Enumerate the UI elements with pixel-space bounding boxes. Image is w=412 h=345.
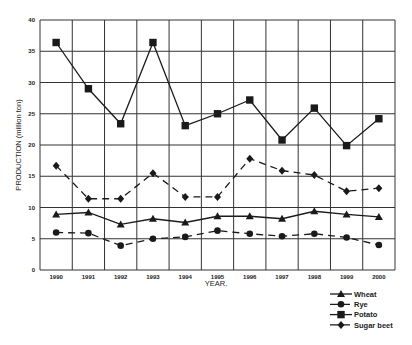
data-series <box>52 39 383 249</box>
series-sugar-beet <box>53 155 383 203</box>
x-tick-label: 1992 <box>114 274 128 280</box>
y-tick-label: 10 <box>28 205 35 211</box>
x-tick-label: 2000 <box>372 274 386 280</box>
square-marker-icon <box>278 136 285 143</box>
square-marker-icon <box>214 110 221 117</box>
diamond-marker-icon <box>343 187 350 195</box>
diamond-marker-icon <box>338 321 345 329</box>
diamond-marker-icon <box>117 195 124 203</box>
x-tick-label: 1991 <box>82 274 96 280</box>
circle-marker-icon <box>338 301 345 308</box>
circle-marker-icon <box>246 230 253 237</box>
y-tick-label: 20 <box>28 142 35 148</box>
x-tick-label: 1999 <box>340 274 354 280</box>
triangle-marker-icon <box>84 209 92 216</box>
square-marker-icon <box>375 115 382 122</box>
x-tick-label: 1993 <box>146 274 160 280</box>
circle-marker-icon <box>343 234 350 241</box>
diamond-marker-icon <box>279 167 286 175</box>
series-rye <box>53 227 382 249</box>
triangle-marker-icon <box>149 215 157 222</box>
circle-marker-icon <box>214 227 221 234</box>
y-axis-title: PRODUCTION (million ton) <box>14 99 23 191</box>
line-chart: 0510152025303540 19901991199219931994199… <box>0 0 412 345</box>
x-tick-label: 1994 <box>179 274 193 280</box>
legend-item-sugar-beet: Sugar beet <box>330 321 393 330</box>
y-tick-label: 35 <box>28 48 35 54</box>
legend-label: Rye <box>354 300 368 309</box>
circle-marker-icon <box>279 233 286 240</box>
circle-marker-icon <box>117 242 124 249</box>
x-tick-label: 1996 <box>243 274 257 280</box>
y-tick-label: 15 <box>28 173 35 179</box>
legend-label: Sugar beet <box>354 321 393 330</box>
x-tick-label: 1990 <box>49 274 63 280</box>
y-axis-ticks: 0510152025303540 <box>28 17 35 273</box>
circle-marker-icon <box>85 230 92 237</box>
y-tick-label: 5 <box>32 236 36 242</box>
legend: WheatRyePotatoSugar beet <box>330 290 393 330</box>
square-marker-icon <box>343 142 350 149</box>
legend-label: Wheat <box>354 290 377 299</box>
x-tick-label: 1997 <box>275 274 289 280</box>
y-tick-label: 40 <box>28 17 35 23</box>
diamond-marker-icon <box>311 171 318 179</box>
square-marker-icon <box>182 122 189 129</box>
legend-item-potato: Potato <box>330 310 378 319</box>
legend-item-rye: Rye <box>330 300 368 309</box>
square-marker-icon <box>85 85 92 92</box>
y-tick-label: 30 <box>28 80 35 86</box>
square-marker-icon <box>52 39 59 46</box>
circle-marker-icon <box>311 230 318 237</box>
triangle-marker-icon <box>310 207 318 214</box>
square-marker-icon <box>311 104 318 111</box>
square-marker-icon <box>337 311 344 318</box>
circle-marker-icon <box>182 234 189 241</box>
legend-item-wheat: Wheat <box>330 290 377 299</box>
x-tick-label: 1998 <box>308 274 322 280</box>
diamond-marker-icon <box>375 184 382 192</box>
y-tick-label: 0 <box>32 267 36 273</box>
square-marker-icon <box>117 120 124 127</box>
diamond-marker-icon <box>246 155 253 163</box>
circle-marker-icon <box>150 235 157 242</box>
series-wheat <box>52 207 383 227</box>
diamond-marker-icon <box>182 193 189 201</box>
x-axis-title: YEAR. <box>205 279 228 288</box>
circle-marker-icon <box>376 242 383 249</box>
square-marker-icon <box>246 96 253 103</box>
circle-marker-icon <box>53 229 60 236</box>
y-tick-label: 25 <box>28 111 35 117</box>
square-marker-icon <box>149 39 156 46</box>
series-potato <box>52 39 382 150</box>
legend-label: Potato <box>354 310 378 319</box>
